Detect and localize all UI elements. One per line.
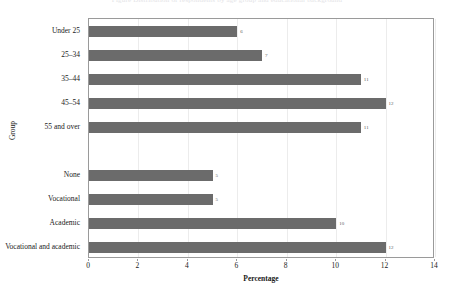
bar-value-label: 11 [364, 125, 369, 130]
bar[interactable] [89, 218, 336, 229]
bar-row[interactable]: 12 [89, 242, 433, 253]
bar-value-label: 5 [216, 173, 219, 178]
y-axis-tick-label: Under 25 [52, 26, 80, 35]
bar-row[interactable]: 5 [89, 170, 433, 181]
bars-layer: 67111211551012 [89, 19, 433, 257]
bar-value-label: 12 [389, 101, 394, 106]
x-axis-tick-label: 8 [284, 261, 288, 270]
bar[interactable] [89, 194, 213, 205]
bar-value-label: 12 [389, 245, 394, 250]
bar-row[interactable]: 5 [89, 194, 433, 205]
bar[interactable] [89, 74, 361, 85]
bar-row[interactable]: 12 [89, 98, 433, 109]
x-axis-tick-label: 6 [234, 261, 238, 270]
bar-row[interactable]: 11 [89, 74, 433, 85]
y-axis-tick-label: Academic [50, 218, 80, 227]
y-axis-tick-label: Vocational and academic [5, 242, 80, 251]
y-axis-tick-label: 55 and over [45, 122, 80, 131]
bar-row[interactable]: 6 [89, 26, 433, 37]
y-axis-tick-label: None [64, 170, 80, 179]
bar-row[interactable]: 10 [89, 218, 433, 229]
y-axis-tick-label: 45–54 [61, 98, 80, 107]
x-axis-tick-label: 14 [430, 261, 438, 270]
bar-value-label: 11 [364, 77, 369, 82]
bar-row[interactable]: 11 [89, 122, 433, 133]
bar[interactable] [89, 242, 386, 253]
bar-row[interactable]: 7 [89, 50, 433, 61]
bar-value-label: 10 [339, 221, 344, 226]
bar[interactable] [89, 26, 237, 37]
y-axis-tick-label: 35–44 [61, 74, 80, 83]
y-axis-tick-label: Vocational [48, 194, 80, 203]
x-axis-title: Percentage [88, 274, 434, 283]
x-axis-tick-label: 2 [136, 261, 140, 270]
x-axis-tick-label: 0 [86, 261, 90, 270]
bar[interactable] [89, 50, 262, 61]
bar[interactable] [89, 98, 386, 109]
bar-value-label: 6 [240, 29, 243, 34]
y-axis-tick-label: 25–34 [61, 50, 80, 59]
x-axis-tick-label: 12 [381, 261, 389, 270]
bar-value-label: 5 [216, 197, 219, 202]
bar[interactable] [89, 170, 213, 181]
x-axis-tick-label: 4 [185, 261, 189, 270]
gridline [435, 19, 436, 257]
bar[interactable] [89, 122, 361, 133]
x-axis-tick-label: 10 [331, 261, 339, 270]
plot-area: 67111211551012 [88, 18, 434, 258]
bar-value-label: 7 [265, 53, 268, 58]
x-axis-ticks: 02468101214 [88, 259, 434, 273]
y-axis-labels: Under 2525–3435–4445–5455 and overNoneVo… [0, 18, 84, 258]
caption-remnant: Figure Distribution of respondents by ag… [0, 0, 454, 4]
chart-figure: Figure Distribution of respondents by ag… [0, 0, 454, 290]
